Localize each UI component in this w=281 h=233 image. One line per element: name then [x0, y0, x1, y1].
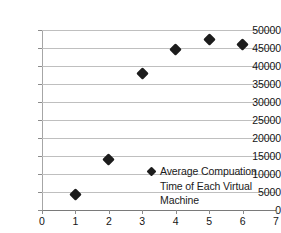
- gridline: [42, 30, 276, 31]
- y-axis-tick-mark: [38, 66, 42, 67]
- legend-entry-label: Average Compuation Time of Each Virtual …: [160, 164, 280, 208]
- x-axis-tick-mark: [42, 210, 43, 214]
- diamond-marker-icon: [147, 167, 157, 177]
- x-axis-tick-label: 1: [65, 216, 85, 227]
- data-point-marker: [203, 33, 216, 46]
- data-point-marker: [136, 67, 149, 80]
- y-axis-tick-mark: [38, 156, 42, 157]
- gridline: [42, 156, 276, 157]
- gridline: [42, 84, 276, 85]
- y-axis-tick-mark: [38, 102, 42, 103]
- gridline: [42, 138, 276, 139]
- y-axis-tick-label: 15000: [244, 151, 281, 161]
- y-axis-tick-mark: [38, 138, 42, 139]
- data-point-marker: [69, 189, 82, 202]
- y-axis-tick-label: 40000: [244, 61, 281, 71]
- x-axis-tick-mark: [176, 210, 177, 214]
- x-axis-tick-label: 2: [99, 216, 119, 227]
- x-axis-line: [42, 210, 276, 211]
- x-axis-tick-mark: [109, 210, 110, 214]
- y-axis-tick-mark: [38, 48, 42, 49]
- x-axis-tick-label: 0: [32, 216, 52, 227]
- y-axis-tick-label: 50000: [244, 25, 281, 35]
- y-axis-tick-mark: [38, 84, 42, 85]
- gridline: [42, 102, 276, 103]
- x-axis-tick-label: 7: [266, 216, 281, 227]
- y-axis-tick-mark: [38, 192, 42, 193]
- y-axis-tick-label: 45000: [244, 43, 281, 53]
- x-axis-tick-label: 5: [199, 216, 219, 227]
- x-axis-tick-mark: [276, 210, 277, 214]
- scatter-chart: 0500010000150002000025000300003500040000…: [0, 0, 281, 233]
- gridline: [42, 66, 276, 67]
- data-point-marker: [169, 43, 182, 56]
- x-axis-tick-label: 6: [233, 216, 253, 227]
- x-axis-tick-mark: [142, 210, 143, 214]
- y-axis-tick-label: 30000: [244, 97, 281, 107]
- y-axis-tick-label: 35000: [244, 79, 281, 89]
- x-axis-tick-label: 3: [132, 216, 152, 227]
- gridline: [42, 120, 276, 121]
- x-axis-tick-label: 4: [166, 216, 186, 227]
- y-axis-tick-mark: [38, 30, 42, 31]
- chart-legend: Average Compuation Time of Each Virtual …: [148, 164, 280, 208]
- y-axis-tick-mark: [38, 120, 42, 121]
- x-axis-tick-mark: [243, 210, 244, 214]
- x-axis-tick-mark: [209, 210, 210, 214]
- y-axis-tick-label: 20000: [244, 133, 281, 143]
- y-axis-tick-mark: [38, 174, 42, 175]
- y-axis-tick-label: 25000: [244, 115, 281, 125]
- x-axis-tick-mark: [75, 210, 76, 214]
